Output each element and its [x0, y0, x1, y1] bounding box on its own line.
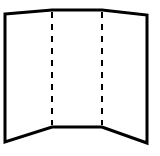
right-panel: [102, 10, 147, 143]
trifold-board-graphic: [0, 0, 160, 156]
center-panel: [52, 10, 102, 127]
diagram-canvas: Tri-fold display board: [0, 0, 160, 156]
board-panels: [5, 10, 147, 143]
left-panel: [5, 10, 52, 142]
